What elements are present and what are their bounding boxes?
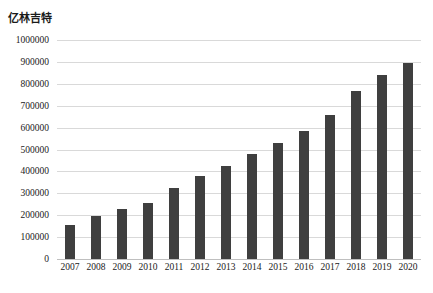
bar[interactable] [325, 115, 335, 259]
y-axis-tick-label: 800000 [21, 79, 50, 89]
y-axis-tick-label: 200000 [21, 210, 50, 220]
x-axis-tick-label: 2016 [291, 262, 317, 272]
x-axis-tick-label: 2010 [135, 262, 161, 272]
bar-slot [213, 40, 239, 259]
y-axis-tick-label: 300000 [21, 188, 50, 198]
bar-slot [265, 40, 291, 259]
x-axis-tick-label: 2011 [161, 262, 187, 272]
bar[interactable] [351, 91, 361, 259]
x-axis-tick-label: 2015 [265, 262, 291, 272]
bar[interactable] [195, 176, 205, 259]
bar-slot [369, 40, 395, 259]
bar[interactable] [273, 143, 283, 260]
y-axis-tick-label: 900000 [21, 57, 50, 67]
y-axis-tick-label: 500000 [21, 145, 50, 155]
x-axis-tick-label: 2020 [395, 262, 421, 272]
bar[interactable] [247, 154, 257, 259]
x-axis-tick-labels: 2007200820092010201120122013201420152016… [57, 262, 421, 272]
bar-slot [291, 40, 317, 259]
x-axis-tick-label: 2019 [369, 262, 395, 272]
bar-slot [109, 40, 135, 259]
x-axis-tick-label: 2008 [83, 262, 109, 272]
y-axis-tick-label: 700000 [21, 101, 50, 111]
bar[interactable] [65, 225, 75, 259]
bar[interactable] [143, 203, 153, 260]
bar-slot [239, 40, 265, 259]
bar-slot [135, 40, 161, 259]
bar-series [57, 40, 421, 259]
bar[interactable] [299, 131, 309, 259]
x-axis-tick-label: 2009 [109, 262, 135, 272]
x-axis-tick-label: 2014 [239, 262, 265, 272]
bar[interactable] [403, 63, 413, 259]
y-axis-tick-label: 100000 [21, 232, 50, 242]
gridline [57, 259, 421, 260]
bar-chart: 亿林吉特 10000009000008000007000006000005000… [0, 0, 433, 293]
bar-slot [57, 40, 83, 259]
x-axis-tick-label: 2018 [343, 262, 369, 272]
y-axis-tick-label: 600000 [21, 123, 50, 133]
y-axis-title: 亿林吉特 [8, 9, 52, 25]
bar[interactable] [91, 216, 101, 259]
bar[interactable] [169, 188, 179, 259]
x-axis-tick-label: 2013 [213, 262, 239, 272]
bar-slot [83, 40, 109, 259]
x-axis-tick-label: 2012 [187, 262, 213, 272]
x-axis-tick-label: 2007 [57, 262, 83, 272]
bar[interactable] [377, 75, 387, 259]
y-axis-tick-label: 400000 [21, 166, 50, 176]
bar-slot [395, 40, 421, 259]
y-axis-tick-label: 1000000 [16, 35, 49, 45]
bar-slot [161, 40, 187, 259]
bar-slot [187, 40, 213, 259]
x-axis-tick-label: 2017 [317, 262, 343, 272]
y-axis-tick-label: 0 [44, 254, 49, 264]
y-axis-tick-labels: 1000000900000800000700000600000500000400… [0, 40, 53, 259]
bar-slot [317, 40, 343, 259]
bar-slot [343, 40, 369, 259]
bar[interactable] [221, 166, 231, 259]
bar[interactable] [117, 209, 127, 259]
plot-area [57, 40, 421, 259]
